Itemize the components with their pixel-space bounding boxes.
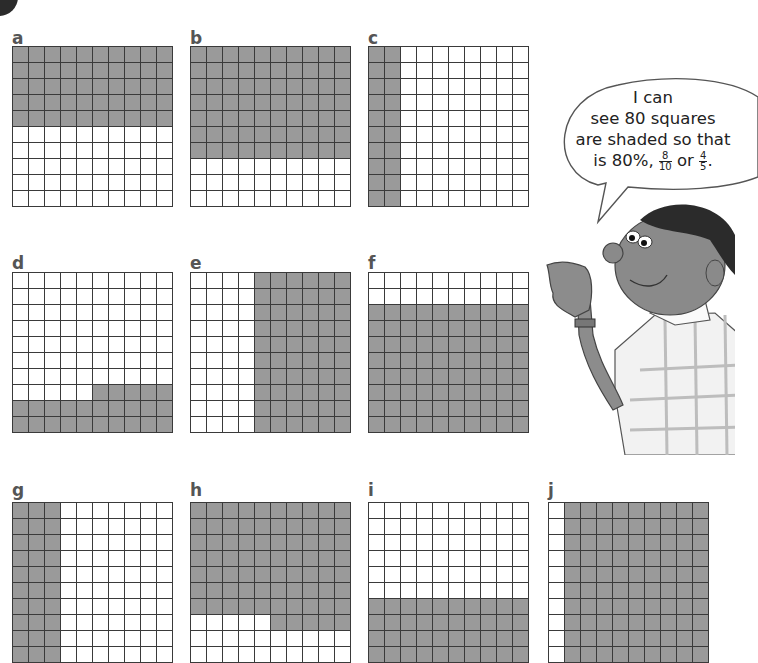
unshaded-square bbox=[29, 191, 45, 207]
shaded-square bbox=[319, 519, 335, 535]
unshaded-square bbox=[513, 519, 529, 535]
shaded-square bbox=[661, 567, 677, 583]
shaded-square bbox=[45, 401, 61, 417]
unshaded-square bbox=[481, 79, 497, 95]
shaded-square bbox=[581, 631, 597, 647]
unshaded-square bbox=[157, 551, 173, 567]
shaded-square bbox=[645, 503, 661, 519]
shaded-square bbox=[239, 551, 255, 567]
shaded-square bbox=[565, 567, 581, 583]
shaded-square bbox=[335, 95, 351, 111]
unshaded-square bbox=[141, 305, 157, 321]
unshaded-square bbox=[465, 583, 481, 599]
shaded-square bbox=[223, 599, 239, 615]
unshaded-square bbox=[207, 631, 223, 647]
unshaded-square bbox=[29, 143, 45, 159]
shaded-square bbox=[481, 631, 497, 647]
grid-label-c: c bbox=[368, 30, 378, 47]
unshaded-square bbox=[13, 289, 29, 305]
shaded-square bbox=[191, 143, 207, 159]
shaded-square bbox=[239, 503, 255, 519]
shaded-square bbox=[401, 385, 417, 401]
unshaded-square bbox=[417, 191, 433, 207]
unshaded-square bbox=[239, 273, 255, 289]
shaded-square bbox=[287, 79, 303, 95]
shaded-square bbox=[303, 337, 319, 353]
shaded-square bbox=[271, 127, 287, 143]
shaded-square bbox=[287, 369, 303, 385]
unshaded-square bbox=[125, 305, 141, 321]
unshaded-square bbox=[109, 353, 125, 369]
unshaded-square bbox=[157, 519, 173, 535]
shaded-square bbox=[303, 503, 319, 519]
unshaded-square bbox=[191, 647, 207, 663]
shaded-square bbox=[417, 385, 433, 401]
shaded-square bbox=[287, 95, 303, 111]
shaded-square bbox=[303, 417, 319, 433]
shaded-square bbox=[255, 143, 271, 159]
shaded-square bbox=[369, 79, 385, 95]
unshaded-square bbox=[93, 143, 109, 159]
unshaded-square bbox=[157, 535, 173, 551]
unshaded-square bbox=[433, 63, 449, 79]
shaded-square bbox=[239, 111, 255, 127]
shaded-square bbox=[93, 417, 109, 433]
shaded-square bbox=[513, 615, 529, 631]
unshaded-square bbox=[481, 583, 497, 599]
shaded-square bbox=[597, 551, 613, 567]
unshaded-square bbox=[239, 305, 255, 321]
unshaded-square bbox=[61, 503, 77, 519]
unshaded-square bbox=[141, 567, 157, 583]
unshaded-square bbox=[287, 175, 303, 191]
unshaded-square bbox=[141, 503, 157, 519]
unshaded-square bbox=[223, 647, 239, 663]
shaded-square bbox=[449, 337, 465, 353]
shaded-square bbox=[271, 599, 287, 615]
unshaded-square bbox=[223, 321, 239, 337]
unshaded-square bbox=[45, 321, 61, 337]
shaded-square bbox=[255, 47, 271, 63]
unshaded-square bbox=[433, 79, 449, 95]
unshaded-square bbox=[465, 79, 481, 95]
shaded-square bbox=[319, 551, 335, 567]
shaded-square bbox=[401, 369, 417, 385]
unshaded-square bbox=[401, 95, 417, 111]
shaded-square bbox=[385, 385, 401, 401]
shaded-square bbox=[693, 631, 709, 647]
unshaded-square bbox=[77, 305, 93, 321]
shaded-square bbox=[255, 337, 271, 353]
unshaded-square bbox=[93, 631, 109, 647]
hundred-grid-a bbox=[12, 46, 173, 207]
unshaded-square bbox=[401, 47, 417, 63]
unshaded-square bbox=[109, 583, 125, 599]
shaded-square bbox=[335, 369, 351, 385]
shaded-square bbox=[255, 385, 271, 401]
unshaded-square bbox=[497, 583, 513, 599]
unshaded-square bbox=[13, 191, 29, 207]
shaded-square bbox=[125, 95, 141, 111]
shaded-square bbox=[433, 353, 449, 369]
shaded-square bbox=[613, 567, 629, 583]
shaded-square bbox=[109, 401, 125, 417]
shaded-square bbox=[677, 631, 693, 647]
shaded-square bbox=[77, 47, 93, 63]
shaded-square bbox=[287, 127, 303, 143]
shaded-square bbox=[93, 401, 109, 417]
shaded-square bbox=[565, 551, 581, 567]
unshaded-square bbox=[207, 305, 223, 321]
unshaded-square bbox=[239, 337, 255, 353]
unshaded-square bbox=[141, 159, 157, 175]
shaded-square bbox=[109, 111, 125, 127]
unshaded-square bbox=[207, 353, 223, 369]
unshaded-square bbox=[549, 567, 565, 583]
shaded-square bbox=[303, 95, 319, 111]
unshaded-square bbox=[141, 191, 157, 207]
unshaded-square bbox=[433, 535, 449, 551]
shaded-square bbox=[385, 143, 401, 159]
shaded-square bbox=[449, 631, 465, 647]
unshaded-square bbox=[141, 551, 157, 567]
shaded-square bbox=[223, 63, 239, 79]
shaded-square bbox=[369, 63, 385, 79]
shaded-square bbox=[77, 401, 93, 417]
unshaded-square bbox=[401, 583, 417, 599]
